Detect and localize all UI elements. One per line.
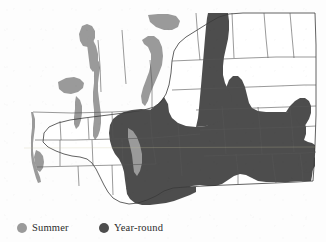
legend-item-yearround: Year-round: [99, 221, 163, 235]
washington-state-map: [0, 0, 326, 215]
summer-coast-strip: [31, 112, 41, 183]
map-canvas: [0, 0, 326, 215]
range-map-figure: Summer Year-round: [0, 0, 326, 242]
map-legend: Summer Year-round: [0, 216, 326, 242]
circle-icon: [99, 223, 109, 233]
legend-label-summer: Summer: [32, 222, 69, 234]
summer-north-border-wedge: [148, 14, 180, 30]
summer-olympic-patch: [58, 77, 84, 94]
circle-icon: [17, 223, 27, 233]
summer-whidbey-strip: [87, 36, 98, 72]
legend-item-summer: Summer: [17, 221, 69, 235]
legend-label-yearround: Year-round: [114, 222, 163, 234]
